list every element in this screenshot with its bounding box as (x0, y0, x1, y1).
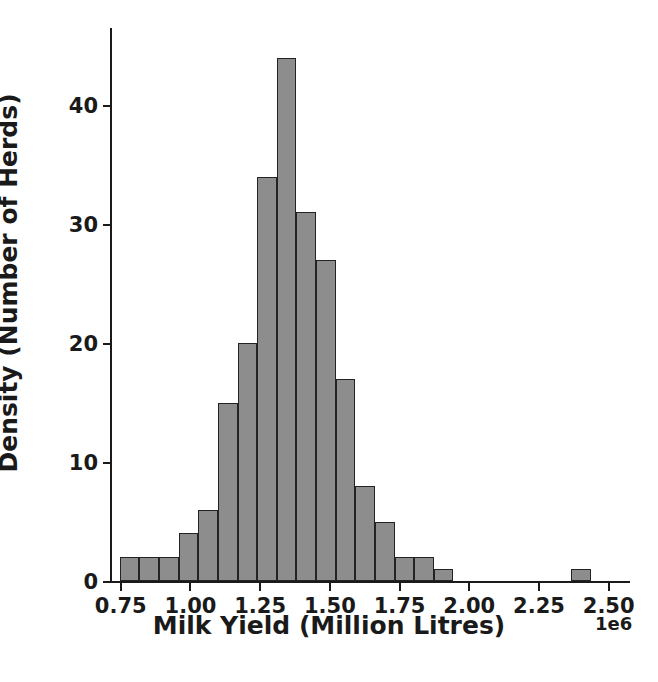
histogram-figure: 010203040 0.751.001.251.501.752.002.252.… (0, 0, 658, 682)
histogram-bar (434, 569, 454, 581)
histogram-bar (355, 486, 375, 581)
x-tick-mark (608, 583, 610, 591)
y-tick-label: 20 (69, 332, 98, 356)
histogram-bar (277, 58, 297, 581)
y-tick-mark: 0 (103, 581, 110, 583)
x-tick-mark (189, 583, 191, 591)
x-tick-mark (259, 583, 261, 591)
y-tick-label: 40 (69, 94, 98, 118)
histogram-bar (316, 260, 336, 581)
plot-area: 010203040 0.751.001.251.501.752.002.252.… (110, 28, 630, 583)
histogram-bar (218, 403, 238, 581)
x-tick-mark (399, 583, 401, 591)
histogram-bar (414, 557, 434, 581)
x-tick-mark (538, 583, 540, 591)
axes-frame: 010203040 0.751.001.251.501.752.002.252.… (110, 28, 630, 583)
x-tick-mark (329, 583, 331, 591)
y-tick-label: 0 (83, 570, 98, 594)
histogram-bar (198, 510, 218, 581)
histogram-bar (395, 557, 415, 581)
histogram-bar (257, 177, 277, 581)
histogram-bar (336, 379, 356, 581)
y-tick-mark: 40 (103, 105, 110, 107)
y-tick-mark: 30 (103, 224, 110, 226)
histogram-bar (139, 557, 159, 581)
histogram-bar (296, 212, 316, 581)
x-tick-mark (120, 583, 122, 591)
y-axis-label: Density (Number of Herds) (0, 0, 34, 624)
histogram-bar (120, 557, 140, 581)
y-tick-label: 10 (69, 451, 98, 475)
y-axis-spine (110, 28, 112, 583)
x-axis-spine (110, 581, 630, 583)
histogram-bar (159, 557, 179, 581)
histogram-bar (238, 343, 258, 581)
x-axis-label: Milk Yield (Million Litres) (0, 611, 658, 640)
y-tick-mark: 20 (103, 343, 110, 345)
histogram-bar (375, 522, 395, 581)
x-axis-offset-text: 1e6 (595, 613, 632, 634)
y-tick-mark: 10 (103, 462, 110, 464)
histogram-bar (179, 533, 199, 581)
y-tick-label: 30 (69, 213, 98, 237)
x-tick-mark (468, 583, 470, 591)
histogram-bar (571, 569, 591, 581)
